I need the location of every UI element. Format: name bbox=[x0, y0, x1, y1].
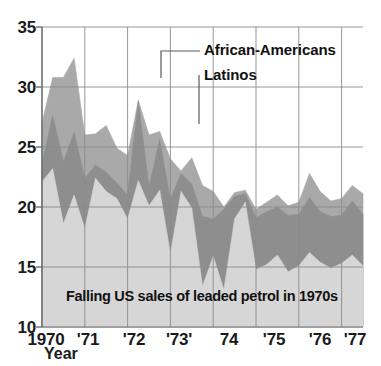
y-tick-label-20: 20 bbox=[2, 198, 36, 218]
y-tick-label-25: 25 bbox=[2, 138, 36, 158]
y-tick-label-35: 35 bbox=[2, 18, 36, 38]
chart-caption: Falling US sales of leaded petrol in 197… bbox=[66, 288, 338, 304]
y-tick-label-15: 15 bbox=[2, 258, 36, 278]
x-axis-title: Year bbox=[44, 345, 78, 363]
chart-figure: 35 30 25 20 15 10 1970 '71 '72 '73' 74 '… bbox=[0, 0, 381, 366]
x-tick-label-77: '77 bbox=[332, 330, 378, 350]
y-tick-marks-group bbox=[36, 27, 42, 327]
y-tick-label-30: 30 bbox=[2, 78, 36, 98]
series-label-latinos: Latinos bbox=[204, 66, 257, 83]
series-label-african-americans: African-Americans bbox=[204, 41, 336, 58]
x-tick-label-73: '73' bbox=[151, 330, 207, 350]
